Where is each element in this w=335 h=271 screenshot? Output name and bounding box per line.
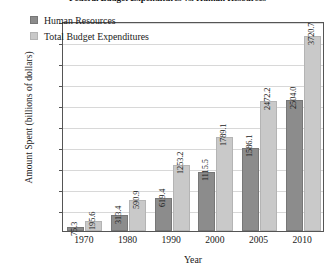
gridline	[63, 107, 323, 108]
bar	[260, 101, 277, 231]
y-tick-mark	[59, 170, 63, 171]
bar-value-label: 195.6	[88, 211, 97, 229]
gridline	[63, 86, 323, 87]
y-tick-mark	[59, 107, 63, 108]
bar-value-label: 2504.0	[289, 86, 298, 108]
y-tick-mark	[59, 86, 63, 87]
y-tick-mark	[59, 149, 63, 150]
y-tick-mark	[59, 128, 63, 129]
plot-area: $4000$3600$3200$2800$2400$2000$1600$1200…	[62, 22, 324, 232]
gridline	[63, 128, 323, 129]
gridline	[63, 149, 323, 150]
bar-value-label: 3720.7	[307, 22, 316, 44]
bar-value-label: 2472.2	[263, 88, 272, 110]
bar-value-label: 1789.1	[219, 124, 228, 146]
x-tick-label: 1970	[74, 234, 93, 245]
legend-label-total-budget: Total Budget Expenditures	[44, 31, 149, 42]
bar	[173, 165, 190, 231]
bar-value-label: 1586.1	[245, 134, 254, 156]
gridline	[63, 170, 323, 171]
x-tick-label: 2005	[249, 234, 268, 245]
x-axis-title: Year	[62, 254, 324, 265]
y-tick-mark	[59, 212, 63, 213]
x-tick-label: 2010	[293, 234, 312, 245]
legend-label-human-resources: Human Resources	[44, 15, 116, 26]
bar-value-label: 619.4	[158, 189, 167, 207]
bar	[216, 137, 233, 231]
y-axis-title: Amount Spent (billions of dollars)	[23, 28, 34, 208]
bar	[198, 172, 215, 231]
y-tick-mark	[59, 65, 63, 66]
bar-value-label: 590.9	[132, 191, 141, 209]
bar	[242, 148, 259, 231]
gridline	[63, 44, 323, 45]
legend-item-human-resources: Human Resources	[30, 12, 149, 28]
y-tick-mark	[59, 44, 63, 45]
bar	[304, 36, 321, 231]
legend-swatch-icon-human-resources	[30, 16, 38, 24]
x-tick-label: 2000	[205, 234, 224, 245]
legend-item-total-budget: Total Budget Expenditures	[30, 28, 149, 44]
bar-value-label: 313.4	[114, 205, 123, 223]
gridline	[63, 191, 323, 192]
x-tick-label: 1980	[118, 234, 137, 245]
y-tick-mark	[59, 191, 63, 192]
bar-value-label: 1115.5	[201, 160, 210, 182]
bar	[286, 100, 303, 231]
chart-figure: Federal Budget Expenditures vs. Human Re…	[0, 0, 335, 271]
gridline	[63, 212, 323, 213]
gridline	[63, 65, 323, 66]
chart-title: Federal Budget Expenditures vs. Human Re…	[0, 0, 335, 3]
x-tick-label: 1990	[162, 234, 181, 245]
legend-swatch-icon-total-budget	[30, 32, 38, 40]
bar-value-label: 1253.2	[176, 152, 185, 174]
chart-legend: Human Resources Total Budget Expenditure…	[30, 12, 149, 44]
